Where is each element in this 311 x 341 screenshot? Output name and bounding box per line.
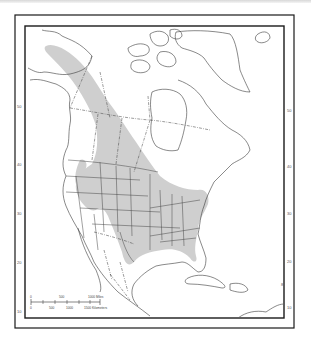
scale-km-1000: 1000 — [66, 306, 73, 310]
lat-label-left-40: 40 — [17, 162, 22, 167]
coastline-iceland — [255, 32, 270, 43]
species-range-area — [45, 45, 209, 264]
lat-label-right-10: 10 — [287, 305, 292, 310]
coastline-south-america — [238, 304, 284, 318]
lat-label-right-30: 30 — [287, 211, 292, 216]
scale-km-1500: 1500 Kilometers — [84, 306, 107, 310]
lat-label-left-10: 10 — [17, 309, 22, 314]
scale-km-0: 0 — [30, 306, 32, 310]
scale-km-500: 500 — [49, 306, 55, 310]
lat-label-left-50: 50 — [17, 104, 22, 109]
lat-label-right-50: 50 — [287, 108, 292, 113]
scale-miles-0: 0 — [30, 295, 32, 299]
scale-bar: 0 500 1000 Miles 0 500 1000 1500 Kilomet… — [30, 295, 107, 310]
lat-label-left-20: 20 — [17, 260, 22, 265]
lat-label-right-20: 20 — [287, 259, 292, 264]
coastline-hudson-bay — [151, 89, 187, 151]
range-map: 50 40 30 20 10 50 40 30 20 8 10 0 500 10… — [0, 0, 311, 341]
latitude-labels-right: 50 40 30 20 8 10 — [281, 108, 292, 310]
coastline-cuba — [185, 275, 225, 288]
lat-label-right-40: 40 — [287, 164, 292, 169]
coastline-baja — [78, 228, 101, 292]
lat-label-left-30: 30 — [17, 211, 22, 216]
scale-miles-1000: 1000 Miles — [88, 295, 104, 299]
scale-miles-500: 500 — [59, 295, 65, 299]
coastline-greenland — [175, 31, 250, 92]
coastline-hispaniola — [230, 283, 248, 292]
coastline-arctic-islands — [128, 29, 182, 73]
latitude-labels-left: 50 40 30 20 10 — [17, 104, 22, 314]
